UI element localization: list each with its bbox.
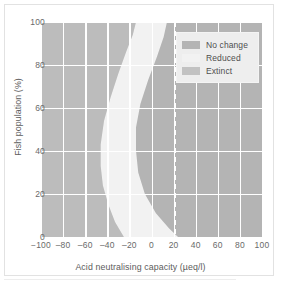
y-tick-label: 20 xyxy=(35,189,45,199)
x-tick-label: ‒20 xyxy=(122,240,137,250)
x-tick-label: ‒40 xyxy=(100,240,115,250)
x-axis-label: Acid neutralising capacity (µeq/l) xyxy=(0,262,281,272)
y-tick-label: 60 xyxy=(35,103,45,113)
vertical-gridline xyxy=(63,22,64,237)
horizontal-gridline xyxy=(41,151,262,152)
x-tick-label: 20 xyxy=(169,240,179,250)
legend-item: Reduced xyxy=(182,51,253,64)
vertical-gridline xyxy=(85,22,86,237)
chart-legend: No change Reduced Extinct xyxy=(176,32,259,83)
x-tick-label: ‒80 xyxy=(56,240,71,250)
x-tick-label: 60 xyxy=(213,240,223,250)
vertical-gridline xyxy=(107,22,108,237)
horizontal-gridline xyxy=(41,108,262,109)
legend-swatch-no-change xyxy=(182,41,200,49)
chart-figure: −100‒80‒60‒40‒20020406080100 02040608010… xyxy=(0,0,281,283)
legend-label-extinct: Extinct xyxy=(206,66,232,76)
vertical-gridline xyxy=(152,22,153,237)
legend-swatch-extinct xyxy=(182,67,200,75)
vertical-gridline xyxy=(129,22,130,237)
y-axis-label: Fish population (%) xyxy=(13,47,23,187)
y-tick-label: 40 xyxy=(35,146,45,156)
y-tick-label: 80 xyxy=(35,60,45,70)
legend-item: No change xyxy=(182,38,253,51)
x-tick-label: 100 xyxy=(255,240,270,250)
x-tick-label: 0 xyxy=(149,240,154,250)
figure-border-bottom xyxy=(4,279,236,280)
horizontal-gridline xyxy=(41,22,262,23)
x-tick-label: 80 xyxy=(235,240,245,250)
x-tick-label: ‒60 xyxy=(78,240,93,250)
vertical-gridline xyxy=(41,22,42,237)
legend-label-no-change: No change xyxy=(206,40,248,50)
legend-item: Extinct xyxy=(182,64,253,77)
x-tick-label: 40 xyxy=(191,240,201,250)
legend-label-reduced: Reduced xyxy=(206,53,241,63)
legend-swatch-reduced xyxy=(182,54,200,62)
y-tick-label: 0 xyxy=(40,232,45,242)
horizontal-gridline xyxy=(41,194,262,195)
y-tick-label: 100 xyxy=(30,17,45,27)
